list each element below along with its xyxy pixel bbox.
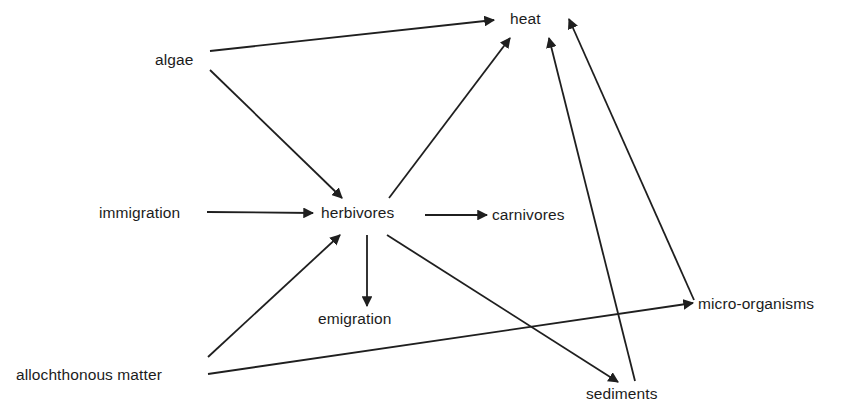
arrow-immigration-to-herbivores xyxy=(207,212,313,213)
node-sediments: sediments xyxy=(586,386,658,402)
node-heat: heat xyxy=(510,11,541,27)
arrow-herbivores-to-sediments xyxy=(387,235,618,382)
node-algae: algae xyxy=(155,52,193,68)
arrow-allochthonous-matter-to-herbivores xyxy=(208,235,340,357)
node-micro-organisms: micro-organisms xyxy=(698,296,814,312)
arrow-algae-to-herbivores xyxy=(210,70,342,198)
node-allochthonous-matter: allochthonous matter xyxy=(16,367,162,383)
arrow-algae-to-heat xyxy=(210,20,494,51)
arrow-micro-organisms-to-heat xyxy=(569,19,694,300)
energy-flow-diagram: heat algae immigration herbivores carniv… xyxy=(0,0,862,418)
edge-group xyxy=(207,19,694,382)
node-carnivores: carnivores xyxy=(492,207,565,223)
arrow-allochthonous-matter-to-micro-organisms xyxy=(208,303,693,374)
node-emigration: emigration xyxy=(318,311,391,327)
node-immigration: immigration xyxy=(99,205,180,221)
arrow-herbivores-to-heat xyxy=(389,38,510,198)
node-herbivores: herbivores xyxy=(321,205,394,221)
